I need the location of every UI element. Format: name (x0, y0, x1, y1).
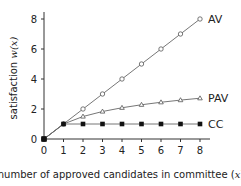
data-point (159, 100, 164, 104)
data-point (81, 107, 85, 111)
legend-cc: CC (208, 118, 224, 131)
x-tick-label: 6 (158, 145, 164, 156)
data-point (198, 122, 203, 127)
data-point (100, 122, 105, 127)
x-tick-label: 3 (99, 145, 105, 156)
data-point (198, 17, 202, 21)
x-tick-label: 0 (41, 145, 47, 156)
data-point (100, 109, 105, 113)
y-tick-label: 0 (31, 134, 37, 145)
data-point (100, 92, 104, 96)
x-tick-label: 2 (80, 145, 86, 156)
data-point (159, 122, 164, 127)
x-tick-label: 4 (119, 145, 125, 156)
x-tick-label: 5 (138, 145, 144, 156)
legend-av: AV (208, 13, 223, 26)
y-tick-label: 2 (31, 104, 37, 115)
data-point (178, 32, 182, 36)
legend-pav: PAV (208, 92, 229, 105)
y-tick-label: 8 (31, 14, 37, 25)
data-point (178, 98, 183, 102)
data-point (42, 137, 47, 142)
data-point (139, 102, 144, 106)
data-point (159, 47, 163, 51)
y-tick-label: 4 (31, 74, 37, 85)
x-axis-label: number of approved candidates in committ… (0, 169, 241, 180)
data-point (120, 105, 125, 109)
x-tick-label: 1 (60, 145, 66, 156)
data-point (139, 62, 143, 66)
y-axis-label: satisfaction w(x) (8, 37, 19, 120)
x-tick-label: 8 (197, 145, 203, 156)
y-tick-label: 6 (31, 44, 37, 55)
x-tick-label: 7 (177, 145, 183, 156)
data-point (139, 122, 144, 127)
data-point (120, 77, 124, 81)
data-point (81, 122, 86, 127)
data-point (81, 114, 86, 118)
data-point (61, 122, 66, 127)
series-pav: PAV (42, 92, 229, 141)
data-point (120, 122, 125, 127)
data-point (178, 122, 183, 127)
data-point (198, 96, 203, 100)
chart: 01234567802468AVPAVCCnumber of approved … (0, 0, 241, 186)
